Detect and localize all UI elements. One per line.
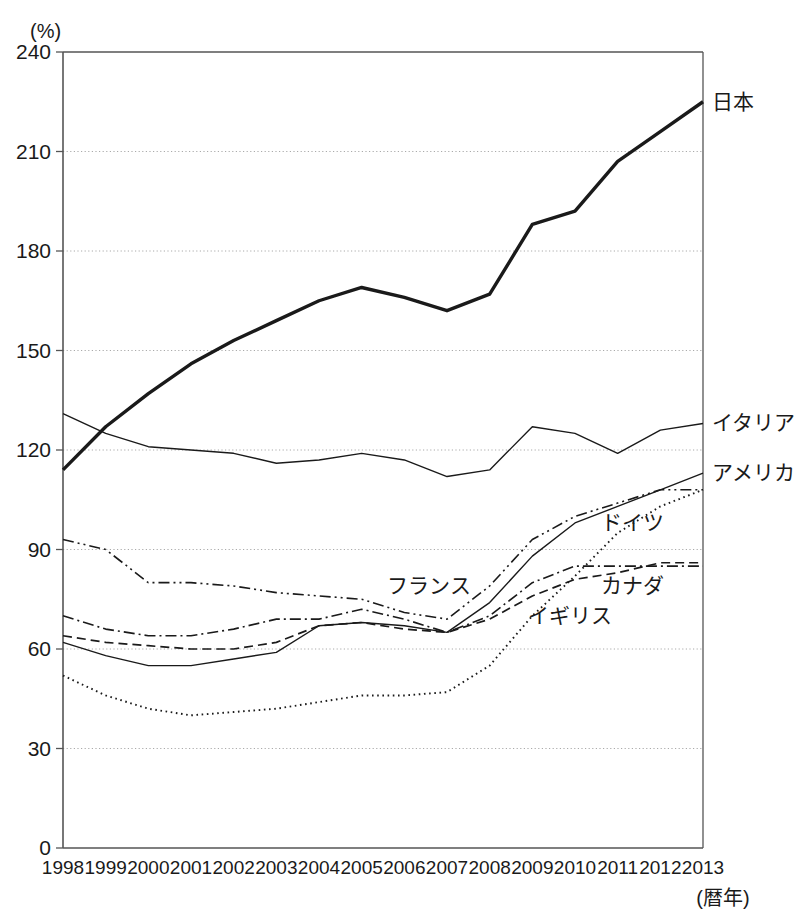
y-tick-label: 60: [28, 637, 51, 660]
y-tick-label: 210: [16, 140, 51, 163]
x-tick-label: 2005: [341, 857, 383, 878]
y-tick-label: 120: [16, 438, 51, 461]
x-tick-label: 2007: [426, 857, 468, 878]
y-tick-label: 90: [28, 538, 51, 561]
series-label-1: イタリア: [712, 411, 795, 434]
x-tick-label: 2003: [255, 857, 297, 878]
x-tick-label: 2011: [597, 857, 638, 878]
y-axis-unit-label: (%): [30, 20, 61, 42]
x-tick-label: 2012: [639, 857, 681, 878]
y-tick-label: 0: [39, 836, 51, 859]
x-tick-label: 2008: [469, 857, 511, 878]
y-tick-label: 240: [16, 40, 51, 63]
series-label-3: ドイツ: [601, 511, 664, 534]
series-label-6: イギリス: [528, 604, 612, 627]
y-tick-label: 180: [16, 239, 51, 262]
chart-canvas: (%) 0306090120150180210240 1998199920002…: [0, 0, 801, 918]
y-tick-label: 150: [16, 339, 51, 362]
x-tick-label: 2010: [554, 857, 596, 878]
x-tick-label: 2004: [298, 857, 341, 878]
series-label-2: アメリカ: [712, 461, 795, 484]
x-tick-label: 1999: [85, 857, 127, 878]
series-label-0: 日本: [712, 90, 754, 113]
series-label-4: フランス: [387, 574, 471, 597]
x-tick-label: 2002: [213, 857, 255, 878]
x-tick-label: 2000: [127, 857, 169, 878]
x-tick-label: 2009: [511, 857, 553, 878]
gdp-debt-ratio-line-chart: (%) 0306090120150180210240 1998199920002…: [0, 0, 801, 918]
x-tick-label: 2013: [682, 857, 724, 878]
x-tick-label: 2006: [383, 857, 425, 878]
series-label-5: カナダ: [601, 574, 664, 597]
x-tick-label: 1998: [42, 857, 84, 878]
y-tick-label: 30: [28, 737, 51, 760]
x-axis-caption: (暦年): [696, 887, 749, 909]
x-tick-label: 2001: [170, 857, 212, 878]
x-tick-labels-group: 1998199920002001200220032004200520062007…: [42, 857, 724, 878]
